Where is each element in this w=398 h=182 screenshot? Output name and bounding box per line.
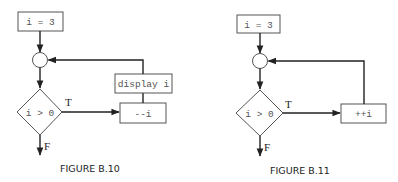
arrow-loop-back [49, 60, 144, 74]
increment-text: ++i [355, 109, 372, 120]
decrement-box: --i [120, 103, 166, 123]
figure-b10: i = 3 i > 0 T --i display i [17, 12, 172, 174]
init-text: i = 3 [244, 20, 273, 31]
figure-caption: FIGURE B.11 [270, 165, 330, 176]
init-box: i = 3 [237, 15, 280, 33]
figure-b11: i = 3 i > 0 T ++i F FIGURE B.11 [236, 15, 386, 176]
init-box: i = 3 [18, 12, 63, 31]
condition-text: i > 0 [26, 108, 55, 119]
decision-diamond: i > 0 [17, 89, 62, 135]
true-label: T [65, 96, 72, 108]
true-label: T [285, 98, 292, 110]
junction-connector [253, 54, 268, 69]
junction-connector [33, 53, 48, 68]
increment-box: ++i [341, 104, 386, 123]
flowchart-canvas: i = 3 i > 0 T --i display i [0, 0, 398, 182]
false-label: F [44, 140, 50, 152]
figure-caption: FIGURE B.10 [60, 163, 120, 174]
false-label: F [264, 141, 270, 153]
arrow-loop-back [269, 61, 365, 104]
init-text: i = 3 [26, 17, 55, 28]
decision-diamond: i > 0 [236, 90, 283, 136]
display-text: display i [118, 79, 170, 90]
condition-text: i > 0 [245, 109, 274, 120]
display-box: display i [115, 74, 172, 93]
decrement-text: --i [134, 109, 151, 120]
